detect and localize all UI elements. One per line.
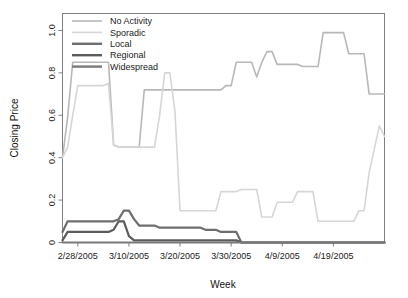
legend-label-3: Regional bbox=[110, 50, 146, 60]
legend-label-4: Widespread bbox=[110, 62, 158, 72]
x-tick-label: 3/20/2005 bbox=[160, 251, 200, 261]
legend-label-0: No Activity bbox=[110, 16, 153, 26]
y-tick-label: 0.4 bbox=[47, 151, 57, 164]
x-axis-ticks: 2/28/20053/10/20053/20/20053/30/20054/9/… bbox=[58, 243, 354, 261]
legend-label-1: Sporadic bbox=[110, 28, 146, 38]
y-tick-label: 0.8 bbox=[47, 67, 57, 80]
legend-label-2: Local bbox=[110, 39, 132, 49]
chart-legend: No ActivitySporadicLocalRegionalWidespre… bbox=[72, 16, 158, 72]
y-axis-title: Closing Price bbox=[9, 98, 20, 157]
x-tick-label: 4/19/2005 bbox=[313, 251, 353, 261]
y-tick-label: 0.2 bbox=[47, 194, 57, 207]
y-axis-ticks: 00.20.40.60.81.0 bbox=[47, 24, 63, 245]
chart-container: 00.20.40.60.81.0 2/28/20053/10/20053/20/… bbox=[0, 0, 408, 298]
y-tick-label: 0.6 bbox=[47, 109, 57, 122]
series-line-local bbox=[63, 211, 385, 243]
y-tick-label: 0 bbox=[47, 240, 57, 245]
x-tick-label: 3/10/2005 bbox=[109, 251, 149, 261]
x-tick-label: 3/30/2005 bbox=[211, 251, 251, 261]
x-axis-title: Week bbox=[210, 279, 236, 290]
x-tick-label: 4/9/2005 bbox=[265, 251, 300, 261]
x-tick-label: 2/28/2005 bbox=[58, 251, 98, 261]
line-chart: 00.20.40.60.81.0 2/28/20053/10/20053/20/… bbox=[0, 0, 408, 298]
y-tick-label: 1.0 bbox=[47, 24, 57, 37]
